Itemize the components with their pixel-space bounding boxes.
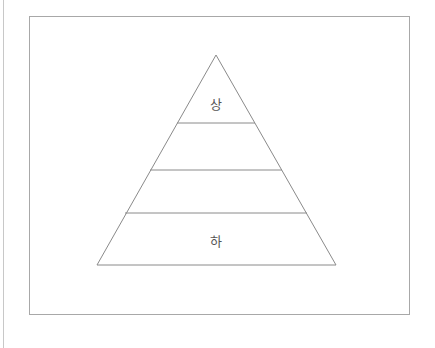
pyramid-label-bottom: 하 <box>210 231 222 250</box>
pyramid-diagram <box>0 0 435 348</box>
pyramid-label-top: 상 <box>210 94 222 113</box>
